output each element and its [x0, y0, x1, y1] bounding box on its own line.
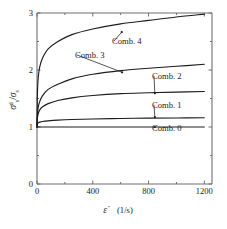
- x-axis-unit: (1/s): [117, 205, 133, 215]
- x-tick-label: 800: [142, 186, 155, 196]
- y-tick-label: 0: [29, 179, 33, 189]
- chart-svg: 040080012000123 Comb. 0Comb. 1Comb. 2Com…: [0, 0, 227, 229]
- leader-marker: [121, 71, 123, 73]
- series-label-comb-4: Comb. 4: [112, 36, 142, 46]
- series-label-comb-2: Comb. 2: [152, 71, 182, 81]
- leader-marker: [154, 92, 156, 94]
- leader-marker: [121, 31, 123, 33]
- y-tick-label: 2: [29, 65, 33, 75]
- y-tick-label: 1: [29, 122, 33, 132]
- x-tick-label: 1200: [196, 186, 213, 196]
- leader-marker: [154, 116, 156, 118]
- series-label-comb-0: Comb. 0: [152, 123, 182, 133]
- series-label-comb-1: Comb. 1: [152, 100, 182, 110]
- x-tick-label: 400: [86, 186, 99, 196]
- y-tick-label: 3: [29, 8, 33, 18]
- series-label-comb-3: Comb. 3: [75, 50, 105, 60]
- x-tick-label: 0: [35, 186, 39, 196]
- chart-figure: 040080012000123 Comb. 0Comb. 1Comb. 2Com…: [0, 0, 227, 229]
